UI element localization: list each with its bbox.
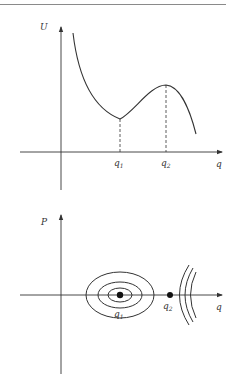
q2-point-label: q2: [163, 301, 173, 312]
p-axis-label: P: [40, 217, 48, 227]
diagram-canvas: U q q1 q2 P q q1 q2: [0, 0, 232, 374]
q1-center-point: [117, 292, 123, 298]
q-axis-label-top: q: [216, 159, 222, 169]
q1-point-label: q1: [114, 309, 124, 320]
u-axis-label: U: [40, 22, 48, 32]
q2-saddle-point: [167, 292, 173, 298]
phase-plot: P q q1 q2: [20, 215, 222, 374]
potential-plot: U q q1 q2: [20, 22, 222, 190]
q1-tick-label: q1: [114, 158, 124, 169]
q-axis-label-bottom: q: [216, 302, 222, 312]
q2-tick-label: q2: [161, 158, 171, 169]
potential-curve: [73, 33, 196, 134]
